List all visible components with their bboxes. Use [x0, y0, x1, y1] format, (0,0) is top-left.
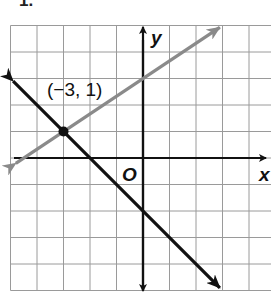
- y-axis-label: y: [150, 27, 163, 48]
- intersection-point: [59, 127, 69, 137]
- origin-label: O: [122, 164, 137, 185]
- x-axis-label: x: [258, 164, 271, 185]
- coordinate-graph: (−3, 1) y x O: [0, 0, 271, 299]
- point-label: (−3, 1): [47, 79, 102, 100]
